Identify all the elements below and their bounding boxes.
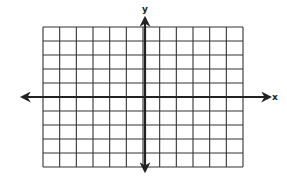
x-axis-label: x <box>272 92 278 102</box>
y-axis-label: y <box>142 4 148 14</box>
coordinate-plane: x y <box>0 0 287 176</box>
